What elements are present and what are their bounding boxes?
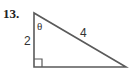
right-triangle-diagram: θ 2 4 [0, 0, 131, 80]
angle-theta-label: θ [37, 20, 42, 32]
right-angle-marker [34, 59, 42, 67]
problem-number: 13. [3, 7, 19, 20]
vertical-leg-label: 2 [24, 34, 31, 48]
hypotenuse-label: 4 [80, 26, 87, 40]
triangle-figure: 13. θ 2 4 [0, 0, 131, 80]
triangle-outline [34, 13, 126, 67]
